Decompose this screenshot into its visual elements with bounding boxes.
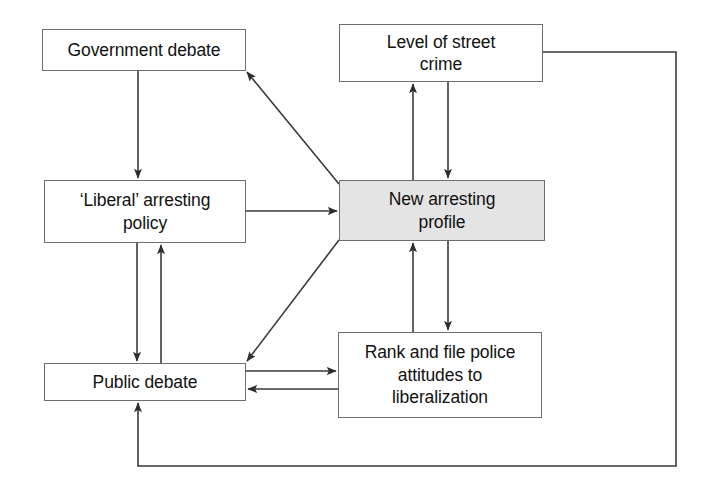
node-liberal-arresting-policy-label: ‘Liberal’ arresting policy xyxy=(74,189,217,234)
node-government-debate-label: Government debate xyxy=(62,39,227,61)
node-level-of-street-crime[interactable]: Level of street crime xyxy=(339,24,543,82)
node-rank-and-file-police[interactable]: Rank and file police attitudes to libera… xyxy=(338,332,542,418)
node-new-arresting-profile[interactable]: New arresting profile xyxy=(339,180,545,241)
edge-new-profile-to-government-debate xyxy=(247,72,339,184)
node-public-debate[interactable]: Public debate xyxy=(44,363,246,401)
node-government-debate[interactable]: Government debate xyxy=(42,29,246,71)
node-liberal-arresting-policy[interactable]: ‘Liberal’ arresting policy xyxy=(44,180,246,243)
flow-diagram-canvas: Government debate ‘Liberal’ arresting po… xyxy=(0,0,706,490)
edge-new-profile-to-public-debate xyxy=(247,240,339,361)
node-public-debate-label: Public debate xyxy=(87,371,204,393)
node-level-of-street-crime-label: Level of street crime xyxy=(381,31,501,76)
node-rank-and-file-police-label: Rank and file police attitudes to libera… xyxy=(359,341,522,408)
node-new-arresting-profile-label: New arresting profile xyxy=(383,188,502,233)
